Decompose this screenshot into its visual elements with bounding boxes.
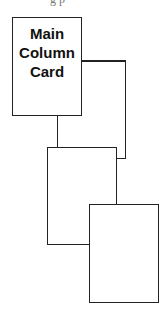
main-column-card: Main Column Card [12, 17, 82, 116]
label-line-1: Main [13, 24, 81, 43]
card-3 [89, 204, 159, 303]
main-card-label: Main Column Card [13, 24, 81, 81]
connector-h-top [81, 60, 126, 62]
connector-v-main-to-card2 [57, 114, 59, 148]
label-line-3: Card [13, 62, 81, 81]
label-line-2: Column [13, 43, 81, 62]
connector-v-right [125, 60, 127, 159]
clipped-caption: g p [50, 0, 65, 7]
